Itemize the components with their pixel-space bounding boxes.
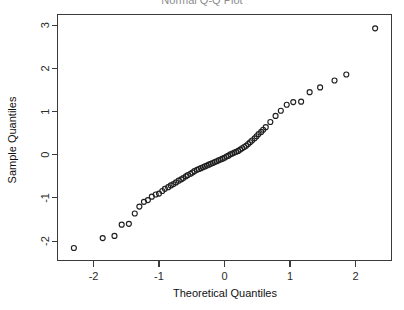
data-point (119, 222, 124, 227)
data-point (344, 72, 349, 77)
qq-plot-figure: Normal Q-Q Plot -2-1012 -2-10123 Theoret… (0, 0, 404, 310)
y-tick-label: 2 (40, 65, 52, 71)
y-tick-label: -1 (40, 193, 52, 203)
y-axis-ticks (52, 25, 58, 241)
data-point (373, 26, 378, 31)
data-point (71, 245, 76, 250)
y-tick-label: 1 (40, 109, 52, 115)
y-axis-tick-labels: -2-10123 (40, 22, 52, 246)
x-axis-tick-labels: -2-1012 (89, 270, 359, 282)
data-point (284, 102, 289, 107)
data-point (299, 99, 304, 104)
scatter-points (71, 26, 377, 251)
data-point (291, 100, 296, 105)
plot-frame (58, 15, 392, 261)
qq-plot-canvas: Normal Q-Q Plot -2-1012 -2-10123 Theoret… (0, 0, 404, 310)
x-tick-label: -2 (89, 270, 99, 282)
data-point (278, 108, 283, 113)
y-tick-label: 3 (40, 22, 52, 28)
x-axis-ticks (94, 261, 356, 267)
data-point (137, 204, 142, 209)
y-axis-title: Sample Quantiles (6, 96, 18, 183)
data-point (132, 211, 137, 216)
data-point (273, 113, 278, 118)
x-tick-label: 2 (352, 270, 358, 282)
plot-title: Normal Q-Q Plot (161, 0, 242, 6)
x-tick-label: 0 (221, 270, 227, 282)
data-point (268, 119, 273, 124)
data-point (332, 78, 337, 83)
data-point (126, 221, 131, 226)
x-tick-label: -1 (154, 270, 164, 282)
data-point (318, 85, 323, 90)
data-point (100, 236, 105, 241)
y-tick-label: 0 (40, 152, 52, 158)
x-tick-label: 1 (287, 270, 293, 282)
y-tick-label: -2 (40, 236, 52, 246)
x-axis-title: Theoretical Quantiles (173, 287, 277, 299)
data-point (112, 233, 117, 238)
data-point (307, 90, 312, 95)
